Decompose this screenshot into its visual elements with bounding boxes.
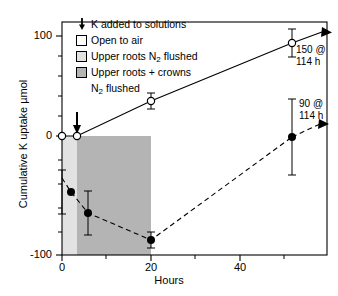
data-point-filled (67, 188, 75, 196)
annotation-lower-line2: 114 h (299, 110, 323, 122)
legend-label-upper-roots-crowns: Upper roots + crowns (91, 65, 191, 80)
swatch-open-icon (72, 33, 91, 47)
y-axis-title: Cumulative K uptake µmol (17, 59, 29, 229)
annotation-upper-line1: 150 @ (296, 44, 326, 56)
figure-container: K added to solutions Open to air Upper r… (0, 0, 338, 296)
legend-label-part: N (91, 82, 99, 94)
k-added-arrow-icon (73, 112, 81, 134)
annotation-lower-line1: 90 @ (299, 98, 323, 110)
data-point-open (58, 132, 65, 139)
arrow-down-icon (72, 17, 91, 31)
data-point-open (288, 39, 295, 46)
legend-item-upper-roots-crowns: Upper roots + crowns (72, 65, 198, 80)
data-point-filled (288, 133, 296, 141)
legend-label-upper-roots: Upper roots N2 flushed (91, 49, 198, 66)
legend-label-upper-roots-crowns-cont: N2 flushed (91, 81, 198, 98)
data-point-filled (147, 236, 155, 244)
legend-label-part: flushed (161, 50, 198, 62)
ytick-label-100: 100 (24, 29, 52, 41)
data-point-open (147, 97, 154, 104)
annotation-lower-endpoint: 90 @ 114 h (299, 98, 323, 122)
legend-label-sub: 2 (99, 87, 103, 96)
legend-label-part: Upper roots N (91, 50, 156, 62)
legend-label-sub: 2 (156, 55, 160, 64)
chart-legend: K added to solutions Open to air Upper r… (72, 17, 198, 98)
y-axis-title-wrapper: Cumulative K uptake µmol (0, 0, 22, 296)
swatch-light-icon (72, 49, 91, 63)
data-point-open (73, 132, 80, 139)
legend-label-k-added: K added to solutions (91, 17, 186, 32)
legend-item-open-to-air: Open to air (72, 33, 198, 48)
series-open-to-air-arrow (292, 27, 332, 43)
legend-item-k-added: K added to solutions (72, 17, 198, 32)
data-point-filled (84, 209, 92, 217)
xtick-label-40: 40 (230, 261, 250, 273)
annotation-upper-endpoint: 150 @ 114 h (296, 44, 326, 68)
legend-label-open-to-air: Open to air (91, 33, 143, 48)
xtick-label-0: 0 (52, 261, 72, 273)
x-axis-title: Hours (0, 274, 338, 286)
swatch-dark-icon (72, 65, 91, 79)
xtick-label-20: 20 (141, 261, 161, 273)
annotation-upper-line2: 114 h (296, 56, 326, 68)
legend-item-upper-roots: Upper roots N2 flushed (72, 49, 198, 64)
legend-label-part: flushed (103, 82, 140, 94)
